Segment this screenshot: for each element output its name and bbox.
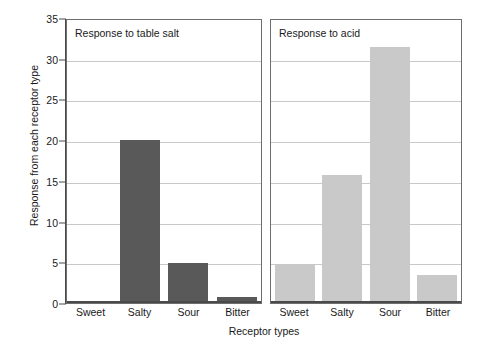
y-tick-mark: [59, 304, 66, 305]
x-axis-label: Receptor types: [66, 325, 462, 337]
bar: [120, 140, 160, 303]
x-tick-label: Bitter: [414, 306, 462, 318]
y-tick-label: 10: [46, 218, 58, 228]
bar-slot: [213, 20, 262, 303]
bar-slot: [414, 20, 462, 303]
y-tick-label: 5: [52, 258, 58, 268]
bar: [168, 263, 208, 303]
bar: [322, 175, 362, 303]
x-tick-label: Sweet: [270, 306, 318, 318]
panel-acid: Response to acid: [270, 19, 462, 304]
bar: [275, 265, 315, 303]
y-axis: 05101520253035: [0, 0, 70, 363]
x-axis-spine-right: [271, 301, 461, 303]
x-tick-label: Sour: [366, 306, 414, 318]
bar-slot: [319, 20, 367, 303]
bar-group-table-salt: [67, 20, 261, 303]
x-tick-label: Sour: [164, 306, 213, 318]
bar-slot: [164, 20, 213, 303]
bar: [417, 275, 457, 303]
bar-slot: [67, 20, 116, 303]
plot-area-acid: [271, 20, 461, 303]
y-tick-mark: [59, 59, 66, 60]
bar-group-acid: [271, 20, 461, 303]
bar: [370, 47, 410, 304]
bar-slot: [116, 20, 165, 303]
bar-slot: [271, 20, 319, 303]
panel-table-salt: Response to table salt: [66, 19, 262, 304]
y-tick-label: 15: [46, 177, 58, 187]
x-axis-spine-left: [67, 301, 261, 303]
y-tick-label: 30: [46, 55, 58, 65]
y-tick-label: 25: [46, 95, 58, 105]
x-tick-labels-right: SweetSaltySourBitter: [270, 306, 462, 322]
x-tick-label: Sweet: [66, 306, 115, 318]
y-tick-mark: [59, 100, 66, 101]
y-tick-mark: [59, 263, 66, 264]
y-tick-mark: [59, 141, 66, 142]
plot-area-table-salt: [67, 20, 261, 303]
x-tick-label: Bitter: [213, 306, 262, 318]
y-tick-mark: [59, 19, 66, 20]
x-tick-label: Salty: [115, 306, 164, 318]
y-tick-label: 35: [46, 14, 58, 24]
y-tick-mark: [59, 181, 66, 182]
y-tick-mark: [59, 222, 66, 223]
y-tick-label: 20: [46, 136, 58, 146]
x-tick-label: Salty: [318, 306, 366, 318]
bar-chart-figure: Response from each receptor type 0510152…: [0, 0, 486, 363]
x-tick-labels-left: SweetSaltySourBitter: [66, 306, 262, 322]
y-tick-label: 0: [52, 299, 58, 309]
bar-slot: [366, 20, 414, 303]
